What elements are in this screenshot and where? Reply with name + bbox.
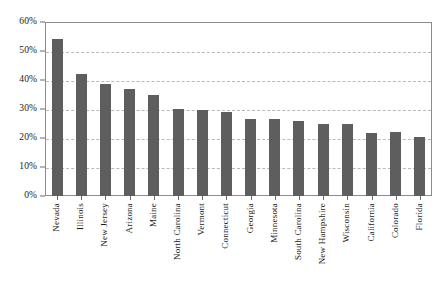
x-axis-tick-mark bbox=[105, 196, 106, 200]
x-axis-category-label: North Carolina bbox=[173, 203, 182, 260]
bar bbox=[221, 112, 232, 196]
x-axis-category-label: New Jersey bbox=[100, 203, 109, 247]
bar bbox=[293, 121, 304, 196]
x-axis-tick-mark bbox=[178, 196, 179, 200]
bar bbox=[245, 119, 256, 196]
x-axis-category-label: New Hampshire bbox=[318, 203, 327, 264]
x-axis-tick-mark bbox=[323, 196, 324, 200]
x-axis-tick-mark bbox=[202, 196, 203, 200]
y-axis-tick-label: 10% bbox=[19, 162, 37, 172]
x-axis-tick-mark bbox=[347, 196, 348, 200]
x-axis-category-label: South Carolina bbox=[294, 203, 303, 260]
bar bbox=[173, 109, 184, 196]
x-axis-category-label: Minnesota bbox=[270, 203, 279, 243]
x-axis-tick-mark bbox=[154, 196, 155, 200]
x-axis-tick-mark bbox=[299, 196, 300, 200]
y-axis-tick-label: 0% bbox=[24, 191, 37, 201]
x-axis-category-label: Wisconsin bbox=[342, 203, 351, 242]
bar bbox=[390, 132, 401, 196]
x-axis-tick-mark bbox=[372, 196, 373, 200]
bar bbox=[342, 124, 353, 196]
bar bbox=[76, 74, 87, 196]
bar bbox=[269, 119, 280, 196]
x-axis: NevadaIllinoisNew JerseyArizonaMaineNort… bbox=[45, 196, 432, 284]
x-axis-tick-mark bbox=[396, 196, 397, 200]
x-axis-tick-mark bbox=[57, 196, 58, 200]
bar bbox=[197, 110, 208, 196]
bar bbox=[318, 124, 329, 197]
y-axis-tick-label: 60% bbox=[19, 17, 37, 27]
bar-chart: 0%10%20%30%40%50%60% NevadaIllinoisNew J… bbox=[0, 0, 447, 284]
x-axis-category-label: Nevada bbox=[52, 203, 61, 232]
x-axis-tick-mark bbox=[226, 196, 227, 200]
bar bbox=[124, 89, 135, 196]
x-axis-category-label: Georgia bbox=[246, 203, 255, 233]
bar bbox=[52, 39, 63, 196]
x-axis-category-label: Arizona bbox=[125, 203, 134, 233]
x-axis-tick-mark bbox=[275, 196, 276, 200]
bar bbox=[366, 133, 377, 196]
x-axis-category-label: Vermont bbox=[197, 203, 206, 235]
bars-container bbox=[45, 22, 432, 196]
x-axis-tick-mark bbox=[81, 196, 82, 200]
y-axis-tick-label: 30% bbox=[19, 104, 37, 114]
x-axis-category-label: Maine bbox=[149, 203, 158, 227]
bar bbox=[100, 84, 111, 196]
y-axis: 0%10%20%30%40%50%60% bbox=[0, 0, 45, 284]
x-axis-tick-mark bbox=[130, 196, 131, 200]
bar bbox=[414, 137, 425, 196]
y-axis-tick-label: 40% bbox=[19, 75, 37, 85]
bar bbox=[148, 95, 159, 197]
x-axis-category-label: California bbox=[367, 203, 376, 242]
x-axis-category-label: Colorado bbox=[391, 203, 400, 238]
y-axis-tick-label: 20% bbox=[19, 133, 37, 143]
x-axis-category-label: Connecticut bbox=[221, 203, 230, 249]
x-axis-tick-mark bbox=[420, 196, 421, 200]
x-axis-category-label: Florida bbox=[415, 203, 424, 230]
x-axis-tick-mark bbox=[251, 196, 252, 200]
y-axis-tick-label: 50% bbox=[19, 46, 37, 56]
x-axis-category-label: Illinois bbox=[76, 203, 85, 230]
